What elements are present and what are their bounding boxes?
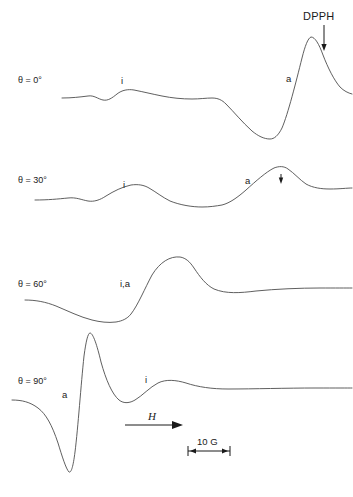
angle-label-theta-90: θ = 90° xyxy=(18,377,47,386)
trace-theta-60 xyxy=(25,257,352,322)
feature-label-i-theta-0: i xyxy=(121,76,123,86)
trace-theta-90 xyxy=(12,333,352,472)
dpph-label: DPPH xyxy=(303,11,334,22)
feature-label-a-theta-90: a xyxy=(62,390,67,400)
feature-label-a-theta-0: a xyxy=(286,74,291,84)
scale-bar-label: 10 G xyxy=(197,437,218,447)
angle-label-theta-0: θ = 0° xyxy=(18,76,42,85)
spectra-plot-canvas xyxy=(0,0,353,497)
feature-label-ia-theta-60: i,a xyxy=(120,279,130,289)
scale-bar-icon xyxy=(188,446,230,456)
field-direction-arrow-icon xyxy=(125,421,183,429)
trace-theta-0 xyxy=(62,37,352,139)
feature-label-i-theta-30: i xyxy=(123,180,125,190)
epr-spectra-figure: θ = 0° θ = 30° θ = 60° θ = 90° i a i a i… xyxy=(0,0,353,497)
dpph-arrow-icon xyxy=(321,25,326,51)
field-axis-label: H xyxy=(148,411,156,422)
theta30-marker-arrow-icon xyxy=(279,174,283,184)
angle-label-theta-60: θ = 60° xyxy=(18,280,47,289)
angle-label-theta-30: θ = 30° xyxy=(18,176,47,185)
feature-label-a-theta-30: a xyxy=(245,176,250,186)
trace-theta-30 xyxy=(35,167,352,207)
feature-label-i-theta-90: i xyxy=(145,375,147,385)
